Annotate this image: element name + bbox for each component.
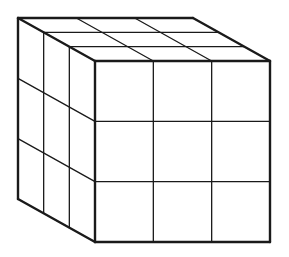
cube-edge xyxy=(18,18,95,61)
cube-drawing xyxy=(0,0,289,257)
left-face-gridline xyxy=(18,78,95,121)
top-face-gridline xyxy=(135,18,212,61)
top-face-gridline xyxy=(76,18,153,61)
cube-edge xyxy=(193,18,270,61)
cube-diagram xyxy=(0,0,289,257)
left-face-gridline xyxy=(18,139,95,182)
cube-edge xyxy=(18,199,95,242)
